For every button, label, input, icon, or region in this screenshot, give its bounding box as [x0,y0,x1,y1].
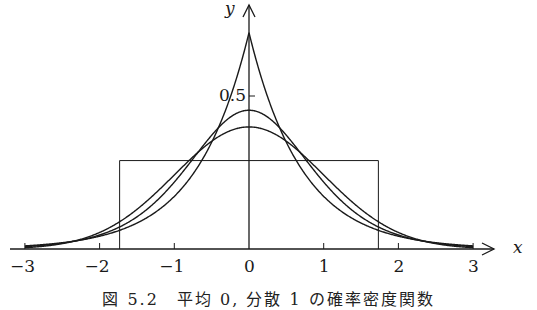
x-tick-label: −1 [159,258,184,275]
x-tick-label: 1 [319,258,330,275]
x-tick-label: −3 [10,258,35,275]
x-tick-label: 2 [393,258,404,275]
figure-caption: 図 5.2 平均 0, 分散 1 の確率密度関数 [0,286,537,310]
y-axis-label: y [225,0,235,17]
x-axis-label: x [513,239,523,256]
x-tick-label: 0 [244,258,255,275]
y-tick-label: 0.5 [219,87,246,104]
x-tick-label: −2 [85,258,110,275]
x-tick-label: 3 [468,258,479,275]
